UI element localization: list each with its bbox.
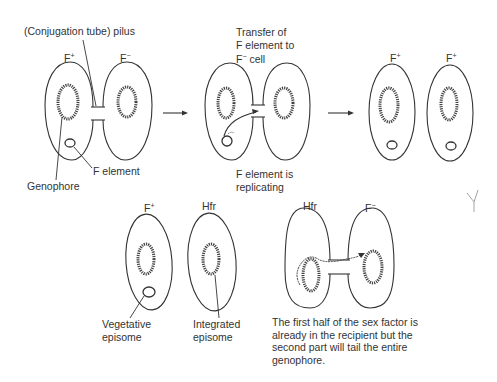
sup: −	[371, 202, 375, 209]
label-panel5-fminus: F−	[365, 200, 376, 215]
transfer-line1: Transfer of	[236, 26, 294, 39]
veg-line1: Vegetative	[102, 318, 151, 331]
stray-y-mark	[467, 190, 478, 212]
label-genophore: Genophore	[27, 180, 80, 193]
sup: −	[126, 52, 130, 59]
transfer-line3: F− cell	[236, 51, 294, 66]
label-f-element: F element	[93, 165, 140, 178]
label-integrated-episome: Integrated episome	[193, 318, 240, 343]
int-line1: Integrated	[193, 318, 240, 331]
sup: +	[150, 202, 154, 209]
label-replicating: F element is replicating	[236, 168, 293, 193]
replicating-line1: F element is	[236, 168, 293, 181]
label-panel1-fminus: F−	[120, 50, 131, 65]
label-panel3-right: F+	[446, 50, 457, 65]
panel3-two-fplus	[369, 64, 473, 161]
transfer-line2: F element to	[236, 39, 294, 52]
panel1-fplus-cell	[45, 62, 93, 160]
panel1-pilus-bridge	[91, 107, 105, 120]
t3-suffix: cell	[247, 53, 266, 65]
veg-line2: episome	[102, 331, 151, 344]
panel4-fplus-hfr	[123, 211, 240, 318]
label-pilus: (Conjugation tube) pilus	[24, 25, 135, 38]
panel5-hfr-fminus	[285, 208, 394, 308]
panel2-transfer	[205, 63, 310, 160]
panel1-mating-pair	[45, 40, 152, 180]
caption-line3: second part will tail the entire	[272, 341, 418, 354]
replicating-line2: replicating	[236, 181, 293, 194]
panel1-fminus-cell	[103, 62, 152, 160]
panel5-caption: The first half of the sex factor is alre…	[272, 316, 418, 366]
label-panel5-hfr: Hfr	[303, 200, 317, 213]
sup: +	[70, 52, 74, 59]
label-panel3-left: F+	[390, 50, 401, 65]
sup: +	[452, 52, 456, 59]
label-panel1-fplus: F+	[64, 50, 75, 65]
sup: +	[396, 52, 400, 59]
label-vegetative-episome: Vegetative episome	[102, 318, 151, 343]
label-panel4-fplus: F+	[144, 200, 155, 215]
caption-line4: genophore.	[272, 354, 418, 367]
caption-line1: The first half of the sex factor is	[272, 316, 418, 329]
caption-line2: already in the recipient but the	[272, 329, 418, 342]
int-line2: episome	[193, 331, 240, 344]
label-transfer: Transfer of F element to F− cell	[236, 26, 294, 66]
label-panel4-hfr: Hfr	[202, 200, 216, 213]
